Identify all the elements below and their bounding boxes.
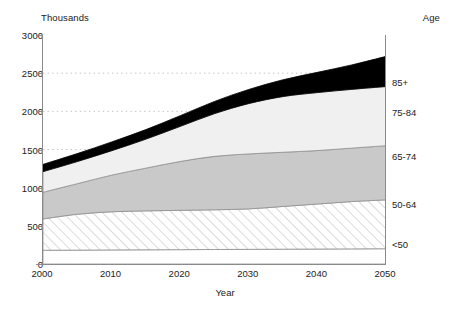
stacked-area-series: [43, 35, 386, 264]
x-tick-label: 2050: [374, 268, 395, 279]
x-tick-label: 2030: [237, 268, 258, 279]
age-band-label-65-74: 65-74: [392, 150, 416, 161]
right-axis-title: Age: [423, 12, 440, 23]
population-projection-area-chart: Thousands Age 050010001500200025003000 2…: [0, 0, 450, 313]
x-tick-label: 2000: [31, 268, 52, 279]
x-tick-label: 2010: [100, 268, 121, 279]
age-band-label-75-84: 75-84: [392, 107, 416, 118]
x-axis-title: Year: [0, 287, 450, 298]
area-band-50: [43, 249, 386, 264]
age-band-label-85: 85+: [392, 77, 408, 88]
x-tick-label: 2020: [169, 268, 190, 279]
right-axis-spine: [385, 35, 386, 265]
x-tick-label: 2040: [306, 268, 327, 279]
area-layers: [43, 56, 386, 264]
y-axis-unit-label: Thousands: [41, 12, 89, 23]
age-band-label-50-64: 50-64: [392, 198, 416, 209]
age-band-label-50: <50: [392, 239, 408, 250]
plot-area: [42, 35, 386, 265]
